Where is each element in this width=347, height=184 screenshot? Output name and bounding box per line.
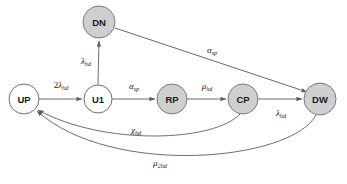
edge-label-u1-to-rp: αsp [129, 81, 139, 92]
node-cp[interactable]: CP [228, 84, 258, 114]
edge-u1-to-dn [98, 41, 99, 85]
edge-dw-to-up [37, 111, 316, 156]
edge-label-dn-to-dw: αsp [207, 45, 217, 56]
node-up-label: UP [17, 94, 31, 105]
edge-label-cp-to-up: χhd [130, 125, 142, 136]
node-u1-label: U1 [92, 94, 105, 105]
edge-label-dw-to-up: μ2hd [152, 158, 168, 169]
edge-label-cp-to-dw: λhd [275, 108, 287, 119]
edge-label-u1-to-dn: λhd [80, 56, 92, 67]
diagram-canvas: 2λhd λhd αsp μhd λhd αsp χhd μ2hd [0, 0, 347, 184]
edge-label-up-to-u1: 2λhd [54, 80, 70, 91]
node-dn-label: DN [92, 17, 106, 28]
node-dw[interactable]: DW [304, 83, 336, 115]
state-transition-diagram: 2λhd λhd αsp μhd λhd αsp χhd μ2hd [0, 0, 347, 184]
node-dn[interactable]: DN [83, 6, 115, 38]
node-rp[interactable]: RP [157, 84, 187, 114]
node-dw-label: DW [312, 94, 328, 105]
node-rp-label: RP [165, 94, 179, 105]
node-u1[interactable]: U1 [84, 85, 112, 113]
node-up[interactable]: UP [9, 84, 39, 114]
node-cp-label: CP [236, 94, 250, 105]
edge-label-rp-to-cp: μhd [201, 81, 214, 92]
edge-dn-to-dw [115, 28, 307, 92]
